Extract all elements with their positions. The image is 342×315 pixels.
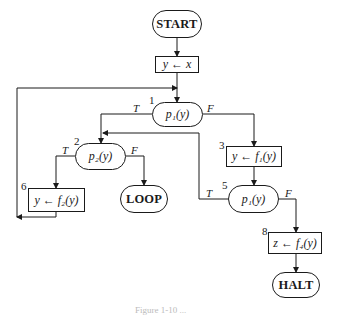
n1-false-label: F xyxy=(207,103,214,114)
process-node-6: y ← f₂(y) xyxy=(28,188,85,212)
figure-caption: Figure 1-10 ... xyxy=(135,305,186,315)
n5-false-label: F xyxy=(285,188,292,199)
edge-n2-to-n6-true xyxy=(56,156,75,188)
n1-true-label: T xyxy=(133,103,139,114)
n2-true-label: T xyxy=(62,145,68,156)
n5-true-label: T xyxy=(206,188,212,199)
decision-node-2: p₂(y) xyxy=(75,143,126,170)
start-node: START xyxy=(152,10,202,38)
n2-false-label: F xyxy=(131,145,138,156)
node-8-number: 8 xyxy=(262,226,268,237)
edge-n1-to-n3-false xyxy=(203,114,254,146)
edge-n5-to-n8-false xyxy=(279,199,296,232)
assign-y-x-node: y ← x xyxy=(155,56,199,73)
process-node-3: y ← f₁(y) xyxy=(226,146,282,167)
decision-node-5: p₁(y) xyxy=(228,185,279,213)
loop-node: LOOP xyxy=(120,185,168,213)
node-3-number: 3 xyxy=(219,140,225,151)
process-node-8: z ← f₄(y) xyxy=(268,232,322,254)
halt-node: HALT xyxy=(272,272,320,298)
edge-n2-to-loop-false xyxy=(126,156,144,185)
edge-n6-to-n1-loop xyxy=(17,212,56,217)
node-1-number: 1 xyxy=(149,95,155,106)
node-5-number: 5 xyxy=(222,180,228,191)
node-6-number: 6 xyxy=(21,181,27,192)
edge-n1-to-n2-true xyxy=(101,114,152,143)
decision-node-1: p₁(y) xyxy=(152,102,203,127)
